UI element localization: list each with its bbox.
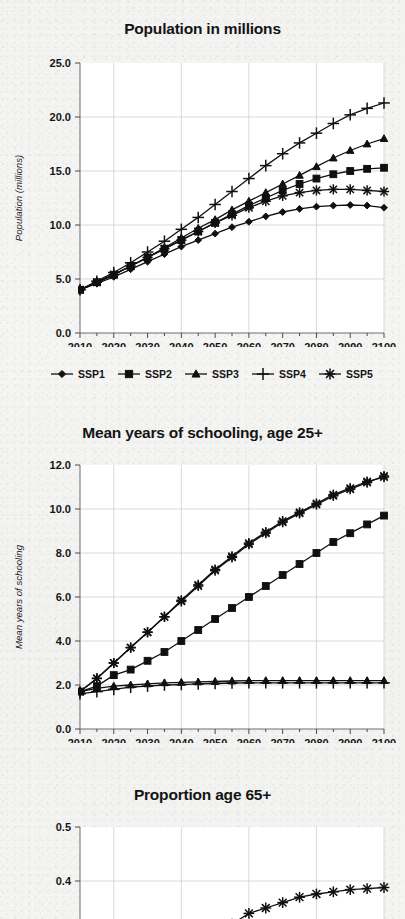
y-axis-label: Population (millions)	[13, 155, 24, 241]
x-tick-label: 2070	[270, 737, 294, 743]
marker-square	[364, 165, 371, 172]
y-tick-label: 0.5	[56, 821, 71, 833]
plot-area-background	[80, 827, 384, 919]
y-tick-label: 10.0	[50, 219, 71, 231]
x-tick-label: 2100	[372, 737, 396, 743]
chart-svg-proportion65: 0.50.40.40.3	[0, 803, 405, 919]
legend-entry-ssp4: SSP4	[252, 368, 306, 380]
x-tick-label: 2050	[203, 341, 227, 347]
marker-square	[313, 175, 320, 182]
x-tick-label: 2060	[237, 341, 261, 347]
x-tick-label: 2040	[169, 737, 193, 743]
x-tick-label: 2030	[135, 737, 159, 743]
chart-title-schooling: Mean years of schooling, age 25+	[0, 424, 405, 441]
legend-label: SSP2	[145, 368, 172, 380]
x-tick-label: 2090	[338, 737, 362, 743]
marker-square	[262, 583, 269, 590]
legend-panel: SSP1SSP2SSP3SSP4SSP5	[0, 358, 405, 388]
legend-entry-ssp3: SSP3	[185, 368, 239, 380]
marker-square	[381, 164, 388, 171]
legend-entry-ssp5: SSP5	[319, 368, 373, 380]
marker-square	[144, 657, 151, 664]
marker-square	[296, 181, 303, 188]
x-tick-label: 2060	[237, 737, 261, 743]
y-tick-label: 0.4	[56, 875, 72, 887]
x-tick-label: 2070	[270, 341, 294, 347]
chart-title-proportion65: Proportion age 65+	[0, 786, 405, 803]
legend-entry-ssp1: SSP1	[51, 368, 105, 380]
y-tick-label: 25.0	[50, 57, 71, 69]
marker-square	[125, 370, 132, 377]
y-tick-label: 15.0	[50, 165, 71, 177]
marker-square	[110, 672, 117, 679]
y-tick-label: 5.0	[56, 273, 71, 285]
x-tick-label: 2020	[102, 341, 126, 347]
x-tick-label: 2040	[169, 341, 193, 347]
legend-label: SSP1	[78, 368, 105, 380]
legend-svg: SSP1SSP2SSP3SSP4SSP5	[0, 358, 405, 388]
chart-panel-schooling: Mean years of schooling, age 25+ 0.02.04…	[0, 424, 405, 743]
x-tick-label: 2050	[203, 737, 227, 743]
marker-square	[347, 530, 354, 537]
legend-label: SSP4	[279, 368, 306, 380]
y-tick-label: 10.0	[50, 503, 71, 515]
y-tick-label: 20.0	[50, 111, 71, 123]
marker-square	[161, 649, 168, 656]
x-tick-label: 2080	[304, 737, 328, 743]
x-tick-label: 2100	[372, 341, 396, 347]
marker-square	[127, 666, 134, 673]
y-tick-label: 0.0	[56, 327, 71, 339]
y-tick-label: 4.0	[56, 635, 71, 647]
marker-square	[195, 627, 202, 634]
y-tick-label: 0.0	[56, 723, 71, 735]
marker-square	[178, 638, 185, 645]
chart-panel-population: Population in millions 0.05.010.015.020.…	[0, 20, 405, 347]
chart-svg-schooling: 0.02.04.06.08.010.012.020102020203020402…	[0, 441, 405, 743]
marker-square	[245, 594, 252, 601]
legend-label: SSP3	[212, 368, 239, 380]
x-tick-label: 2030	[135, 341, 159, 347]
x-tick-label: 2080	[304, 341, 328, 347]
x-tick-label: 2010	[68, 737, 92, 743]
plot-area-background	[80, 63, 384, 333]
chart-svg-population: 0.05.010.015.020.025.0201020202030204020…	[0, 37, 405, 347]
marker-square	[330, 539, 337, 546]
y-tick-label: 8.0	[56, 547, 71, 559]
marker-square	[381, 512, 388, 519]
x-tick-label: 2020	[102, 737, 126, 743]
y-axis-label: Mean years of schooling	[13, 544, 24, 649]
marker-diamond	[58, 370, 65, 377]
marker-square	[279, 572, 286, 579]
y-tick-label: 2.0	[56, 679, 71, 691]
marker-square	[313, 550, 320, 557]
chart-title-population: Population in millions	[0, 20, 405, 37]
y-tick-label: 12.0	[50, 459, 71, 471]
marker-square	[212, 616, 219, 623]
marker-square	[347, 168, 354, 175]
marker-square	[330, 171, 337, 178]
marker-square	[364, 521, 371, 528]
chart-panel-proportion65: Proportion age 65+ 0.50.40.40.3	[0, 786, 405, 919]
x-tick-label: 2090	[338, 341, 362, 347]
y-tick-label: 6.0	[56, 591, 71, 603]
legend-label: SSP5	[346, 368, 373, 380]
marker-square	[229, 605, 236, 612]
x-tick-label: 2010	[68, 341, 92, 347]
marker-square	[296, 561, 303, 568]
legend-entry-ssp2: SSP2	[118, 368, 172, 380]
